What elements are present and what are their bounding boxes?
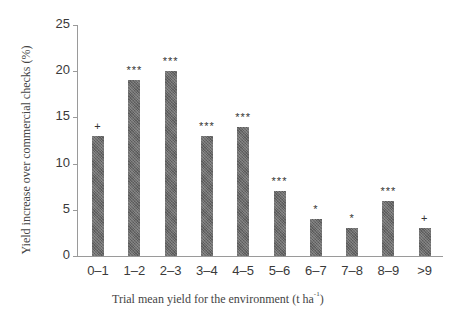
y-tick-label: 10 [40,156,70,170]
y-tick-mark [73,25,78,26]
y-axis-title: Yield increase over commercial checks (%… [19,46,34,255]
bar [165,71,177,256]
significance-marker: *** [368,185,408,197]
y-tick-label: 15 [40,109,70,123]
y-tick-mark [73,210,78,211]
significance-marker: *** [260,175,300,187]
x-tick-label: 8–9 [368,264,408,278]
x-axis-title-superscript: -1 [314,290,320,298]
x-tick-label: 0–1 [78,264,118,278]
bar [419,228,431,256]
y-tick-mark [73,71,78,72]
x-axis-line [77,256,443,257]
y-tick-mark [73,256,78,257]
bar [128,80,140,256]
y-tick-mark [73,164,78,165]
x-tick-label: 3–4 [187,264,227,278]
y-tick-label: 20 [40,63,70,77]
significance-marker: + [78,120,118,132]
x-tick-label: >9 [405,264,445,278]
y-tick-label: 5 [40,202,70,216]
x-tick-label: 1–2 [114,264,154,278]
x-axis-title-text: Trial mean yield for the environment (t … [112,292,314,306]
x-tick-label: 4–5 [223,264,263,278]
x-axis-title-close: ) [320,292,324,306]
significance-marker: *** [187,120,227,132]
significance-marker: * [296,203,336,215]
bar [310,219,322,256]
x-tick-label: 5–6 [260,264,300,278]
bar-chart: Yield increase over commercial checks (%… [0,0,464,318]
significance-marker: *** [223,111,263,123]
x-tick-label: 6–7 [296,264,336,278]
bar [382,201,394,256]
significance-marker: * [332,212,372,224]
y-tick-mark [73,117,78,118]
bar [346,228,358,256]
significance-marker: *** [114,64,154,76]
y-tick-label: 0 [40,248,70,262]
x-axis-title: Trial mean yield for the environment (t … [112,292,324,307]
significance-marker: + [405,212,445,224]
bar [92,136,104,256]
x-tick-label: 2–3 [151,264,191,278]
bar [201,136,213,256]
bar [237,127,249,256]
y-axis-line [77,25,78,257]
x-tick-label: 7–8 [332,264,372,278]
y-tick-label: 25 [40,17,70,31]
significance-marker: *** [151,55,191,67]
bar [274,191,286,256]
